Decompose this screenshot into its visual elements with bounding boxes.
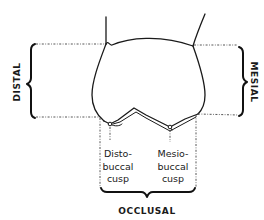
occlusal-label: OCCLUSAL	[118, 206, 176, 216]
mesial-label: MESIAL	[249, 61, 259, 102]
distobuccal-cusp-tip	[108, 122, 112, 126]
svg-text:cusp: cusp	[107, 173, 129, 184]
distobuccal-cusp-label: Disto- buccal cusp	[103, 148, 134, 184]
mesiobuccal-cusp-tip	[168, 125, 172, 129]
svg-text:cusp: cusp	[162, 173, 184, 184]
svg-text:Mesio-: Mesio-	[157, 148, 188, 159]
tooth-diagram: DISTAL MESIAL OCCLUSAL Disto- buccal cus…	[0, 0, 264, 220]
distal-label: DISTAL	[12, 62, 22, 101]
adjacent-tooth-mesial	[193, 14, 205, 46]
crown-outline	[92, 38, 205, 131]
distal-brace	[27, 44, 35, 118]
mesial-brace	[239, 47, 247, 116]
distal-extension-lines	[36, 44, 105, 117]
mesiobuccal-cusp-label: Mesio- buccal cusp	[157, 148, 188, 184]
svg-text:buccal: buccal	[158, 161, 189, 172]
svg-text:Disto-: Disto-	[104, 148, 132, 159]
mesial-extension-lines	[194, 45, 238, 115]
svg-text:buccal: buccal	[103, 161, 134, 172]
occlusal-brace	[101, 188, 195, 197]
